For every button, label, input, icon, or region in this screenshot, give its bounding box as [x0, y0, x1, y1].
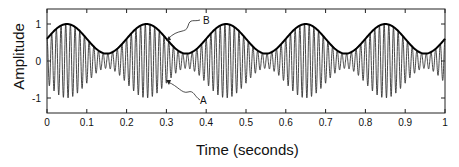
x-tick-label: 0.6 [279, 117, 293, 128]
x-tick-label: 0.1 [80, 117, 94, 128]
x-tick-label: 1 [442, 117, 448, 128]
x-axis-label: Time (seconds) [196, 141, 299, 158]
y-axis-label: Amplitude [10, 17, 27, 97]
annotation-b-leader [168, 20, 200, 39]
x-tick-label: 0.2 [120, 117, 134, 128]
x-tick-label: 0.8 [358, 117, 372, 128]
x-tick-label: 0.3 [159, 117, 173, 128]
annotation-a-label: A [200, 95, 207, 106]
annotation-b-label: B [203, 15, 210, 26]
x-tick-label: 0.7 [319, 117, 333, 128]
y-tick-label: -1 [32, 93, 41, 104]
y-tick-label: 1 [35, 19, 41, 30]
x-tick-label: 0.5 [239, 117, 253, 128]
plot-area: 00.10.20.30.40.50.60.70.80.9110-1BA [32, 9, 448, 128]
x-tick-label: 0 [44, 117, 50, 128]
signal-a-line [47, 24, 445, 98]
y-tick-label: 0 [35, 56, 41, 67]
x-tick-label: 0.4 [199, 117, 213, 128]
annotation-a-leader [168, 82, 200, 100]
x-tick-label: 0.9 [398, 117, 412, 128]
